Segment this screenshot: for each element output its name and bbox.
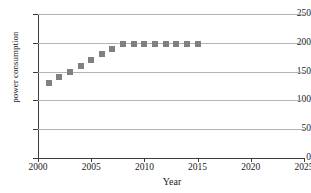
plot-area bbox=[38, 14, 304, 158]
data-point-marker bbox=[131, 41, 137, 47]
gridline bbox=[38, 43, 304, 44]
data-point-marker bbox=[109, 46, 115, 52]
data-point-marker bbox=[141, 41, 147, 47]
x-axis-tick-label: 2010 bbox=[124, 162, 164, 172]
x-axis-tick-mark bbox=[251, 158, 252, 162]
data-point-marker bbox=[120, 41, 126, 47]
gridline bbox=[38, 129, 304, 130]
x-axis-tick-mark bbox=[144, 158, 145, 162]
x-axis-tick-mark bbox=[38, 158, 39, 162]
x-axis-tick-label: 2025 bbox=[284, 162, 311, 172]
data-point-marker bbox=[67, 69, 73, 75]
data-point-marker bbox=[184, 41, 190, 47]
gridline bbox=[38, 14, 304, 15]
x-axis-tick-mark bbox=[198, 158, 199, 162]
data-point-marker bbox=[163, 41, 169, 47]
data-point-marker bbox=[78, 63, 84, 69]
data-point-marker bbox=[152, 41, 158, 47]
power-consumption-scatter-chart: power consumption 050100150200250 200020… bbox=[0, 0, 311, 193]
data-point-marker bbox=[46, 80, 52, 86]
data-point-marker bbox=[173, 41, 179, 47]
x-axis-tick-label: 2015 bbox=[178, 162, 218, 172]
x-axis-tick-label: 2000 bbox=[18, 162, 58, 172]
x-axis-tick-label: 2005 bbox=[71, 162, 111, 172]
x-axis-line bbox=[38, 158, 305, 159]
gridline bbox=[38, 100, 304, 101]
data-point-marker bbox=[195, 41, 201, 47]
data-point-marker bbox=[56, 74, 62, 80]
y-axis-title: power consumption bbox=[10, 7, 20, 127]
x-axis-title: Year bbox=[38, 176, 306, 187]
gridline bbox=[38, 72, 304, 73]
x-axis-tick-mark bbox=[304, 158, 305, 162]
data-point-marker bbox=[88, 57, 94, 63]
data-point-marker bbox=[99, 51, 105, 57]
x-axis-tick-mark bbox=[91, 158, 92, 162]
x-axis-tick-label: 2020 bbox=[231, 162, 271, 172]
